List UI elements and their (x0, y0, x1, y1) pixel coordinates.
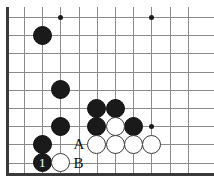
stone-black (124, 117, 143, 136)
stone-black (51, 80, 70, 99)
go-board-diagram: 1AB (0, 0, 214, 192)
stone-move-number: 1 (33, 153, 52, 172)
stone-black (33, 26, 52, 45)
stone-black (106, 99, 125, 118)
point-label-b: B (74, 156, 84, 171)
star-point (149, 124, 154, 129)
stone-black (87, 99, 106, 118)
stone-black (51, 117, 70, 136)
board-edge-bottom (6, 173, 214, 176)
stone-white (106, 117, 125, 136)
grid-line-horizontal (6, 53, 214, 54)
stone-white (51, 153, 70, 172)
star-point (149, 15, 154, 20)
grid-line-horizontal (6, 17, 214, 18)
board-edge-left (6, 7, 9, 175)
stone-black (87, 117, 106, 136)
star-point (58, 15, 63, 20)
stone-white (124, 135, 143, 154)
grid-line-horizontal (6, 90, 214, 91)
goban: 1AB (0, 0, 214, 180)
stone-white (106, 135, 125, 154)
stone-white (87, 135, 106, 154)
point-label-a: A (74, 137, 85, 152)
stone-white (142, 135, 161, 154)
grid-line-horizontal (6, 72, 214, 73)
stone-black (33, 135, 52, 154)
